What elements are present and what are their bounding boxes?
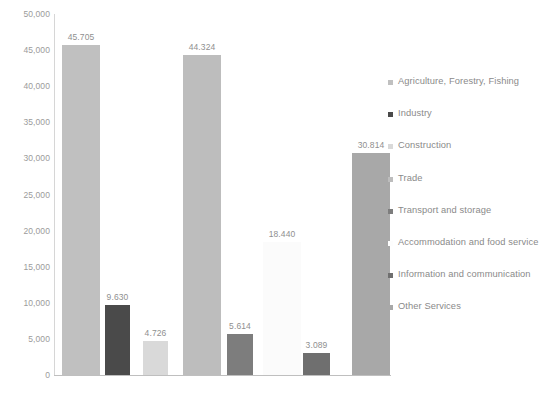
legend-item[interactable]: Information and communication bbox=[388, 269, 553, 301]
bar[interactable] bbox=[352, 153, 390, 375]
y-axis-tick-label: 30,000 bbox=[6, 153, 50, 163]
bar-value-label: 45.705 bbox=[54, 32, 108, 42]
bar-value-label: 44.324 bbox=[175, 42, 229, 52]
legend-item[interactable]: Transport and storage bbox=[388, 205, 553, 237]
y-axis-tick-label: 20,000 bbox=[6, 226, 50, 236]
legend-swatch-icon bbox=[388, 177, 393, 182]
bar[interactable] bbox=[303, 353, 330, 375]
legend-item[interactable]: Trade bbox=[388, 173, 553, 205]
y-axis-tick-label: 35,000 bbox=[6, 117, 50, 127]
chart-legend: Agriculture, Forestry, FishingIndustryCo… bbox=[388, 76, 553, 334]
legend-item[interactable]: Construction bbox=[388, 140, 553, 172]
legend-item-label: Other Services bbox=[398, 301, 461, 312]
bar-value-label: 9.630 bbox=[97, 292, 138, 302]
legend-swatch-icon bbox=[388, 273, 393, 278]
legend-swatch-icon bbox=[388, 144, 393, 149]
legend-swatch-icon bbox=[388, 241, 393, 246]
y-axis-tick-label: 45,000 bbox=[6, 45, 50, 55]
legend-item-label: Construction bbox=[398, 140, 451, 151]
bar[interactable] bbox=[183, 55, 221, 375]
plot-area: 45.7059.6304.72644.3245.61418.4403.08930… bbox=[55, 14, 391, 375]
legend-item-label: Transport and storage bbox=[398, 205, 491, 216]
legend-item-label: Agriculture, Forestry, Fishing bbox=[398, 76, 519, 87]
legend-item-label: Industry bbox=[398, 108, 432, 119]
legend-item[interactable]: Accommodation and food service bbox=[388, 237, 553, 269]
legend-item[interactable]: Agriculture, Forestry, Fishing bbox=[388, 76, 553, 108]
bar-value-label: 3.089 bbox=[295, 340, 338, 350]
y-axis-tick-label: 25,000 bbox=[6, 190, 50, 200]
y-axis-tick-labels: 50,00045,00040,00035,00030,00025,00020,0… bbox=[0, 0, 50, 400]
bar-value-label: 5.614 bbox=[219, 321, 261, 331]
bar[interactable] bbox=[227, 334, 253, 375]
bar[interactable] bbox=[62, 45, 100, 375]
legend-swatch-icon bbox=[388, 209, 393, 214]
y-axis-tick-label: 0 bbox=[6, 370, 50, 380]
bar[interactable] bbox=[105, 305, 130, 375]
bar-value-label: 4.726 bbox=[135, 328, 176, 338]
legend-swatch-icon bbox=[388, 112, 393, 117]
legend-swatch-icon bbox=[388, 305, 393, 310]
y-axis-tick-label: 10,000 bbox=[6, 298, 50, 308]
x-axis-line bbox=[54, 375, 391, 376]
bar-chart: 50,00045,00040,00035,00030,00025,00020,0… bbox=[0, 0, 553, 400]
legend-item-label: Trade bbox=[398, 173, 422, 184]
y-axis-tick-label: 50,000 bbox=[6, 9, 50, 19]
y-axis-tick-label: 5,000 bbox=[6, 334, 50, 344]
bar-value-label: 18.440 bbox=[255, 229, 309, 239]
bar[interactable] bbox=[263, 242, 301, 375]
legend-item-label: Accommodation and food service bbox=[398, 237, 538, 248]
legend-item[interactable]: Industry bbox=[388, 108, 553, 140]
legend-swatch-icon bbox=[388, 80, 393, 85]
y-axis-tick-label: 15,000 bbox=[6, 262, 50, 272]
legend-item-label: Information and communication bbox=[398, 269, 531, 280]
bar[interactable] bbox=[143, 341, 168, 375]
legend-item[interactable]: Other Services bbox=[388, 301, 553, 333]
y-axis-tick-label: 40,000 bbox=[6, 81, 50, 91]
